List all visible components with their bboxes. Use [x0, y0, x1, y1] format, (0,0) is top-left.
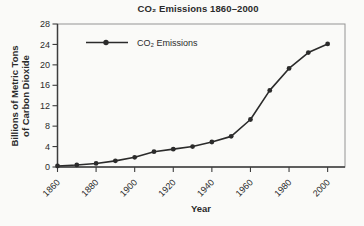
legend: CO₂ Emissions: [84, 37, 198, 48]
legend-line-marker-icon: [84, 37, 130, 48]
data-point-marker: [152, 149, 157, 154]
legend-dot-marker: [103, 40, 108, 45]
chart-figure: CO₂ Emissions 1860–2000 Billions of Metr…: [0, 0, 364, 226]
data-point-marker: [171, 147, 176, 152]
x-tick-label: 1980: [272, 177, 293, 198]
x-tick-label: 2000: [311, 177, 332, 198]
y-tick-label: 4: [45, 142, 50, 152]
y-tick-label: 0: [45, 162, 50, 172]
x-tick-label: 1880: [79, 177, 100, 198]
data-point-marker: [132, 155, 137, 160]
data-point-marker: [209, 140, 214, 145]
data-point-marker: [74, 163, 79, 168]
data-point-marker: [287, 66, 292, 71]
data-point-marker: [113, 158, 118, 163]
legend-label: CO₂ Emissions: [137, 38, 198, 48]
x-tick-label: 1860: [41, 177, 62, 198]
y-tick-label: 28: [40, 19, 50, 29]
y-tick-label: 20: [40, 60, 50, 70]
data-point-marker: [190, 144, 195, 149]
x-tick-label: 1960: [234, 177, 255, 198]
y-tick-label: 24: [40, 40, 50, 50]
data-point-marker: [55, 164, 60, 169]
plot-area: 0481216202428186018801900192019401960198…: [0, 0, 364, 226]
y-tick-label: 16: [40, 80, 50, 90]
y-tick-label: 12: [40, 101, 50, 111]
x-tick-label: 1940: [195, 177, 216, 198]
x-tick-label: 1900: [118, 177, 139, 198]
data-point-marker: [229, 134, 234, 139]
x-axis-title: Year: [38, 203, 364, 214]
data-point-marker: [267, 88, 272, 93]
data-point-marker: [248, 117, 253, 122]
y-tick-label: 8: [45, 121, 50, 131]
data-point-marker: [94, 161, 99, 166]
x-tick-label: 1920: [156, 177, 177, 198]
data-point-marker: [325, 42, 330, 47]
data-point-marker: [306, 50, 311, 55]
